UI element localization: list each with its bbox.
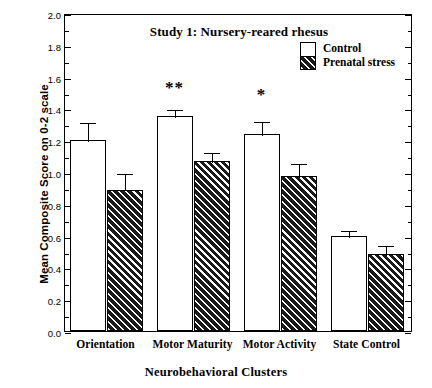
error-bar-stem bbox=[175, 110, 176, 118]
y-tick-mark-right bbox=[405, 47, 411, 48]
y-tick-mark-right bbox=[405, 174, 411, 175]
y-tick-label: 1.4 bbox=[48, 105, 61, 116]
y-tick-mark-right bbox=[405, 142, 411, 143]
error-bar-cap bbox=[80, 123, 96, 124]
y-minor-tick-mark-left bbox=[65, 317, 69, 318]
y-tick-mark-left bbox=[65, 110, 71, 111]
figure-canvas: Mean Composite Score on 0-2 scale Study … bbox=[0, 0, 432, 388]
y-tick-mark-left bbox=[65, 333, 71, 334]
bar-motor-activity-control bbox=[244, 134, 280, 331]
y-tick-label: 2.0 bbox=[48, 10, 61, 21]
error-bar-cap bbox=[291, 164, 307, 165]
y-tick-label: 0.0 bbox=[48, 328, 61, 339]
y-tick-label: 0.4 bbox=[48, 264, 61, 275]
bar-motor-maturity-prenatal-stress bbox=[194, 161, 230, 331]
y-tick-mark-right bbox=[405, 206, 411, 207]
significance-marker-motor-activity: * bbox=[257, 86, 267, 103]
error-bar-cap bbox=[254, 122, 270, 123]
error-bar-stem bbox=[299, 164, 300, 178]
x-axis-label-orientation: Orientation bbox=[76, 338, 135, 350]
bar-motor-activity-prenatal-stress bbox=[281, 176, 317, 331]
y-minor-tick-mark-right bbox=[408, 95, 412, 96]
x-axis-label-motor-activity: Motor Activity bbox=[243, 338, 317, 350]
y-tick-mark-right bbox=[405, 79, 411, 80]
legend-swatch-prenatal-stress bbox=[301, 56, 315, 69]
y-minor-tick-mark-left bbox=[65, 158, 69, 159]
y-tick-mark-left bbox=[65, 15, 71, 16]
y-minor-tick-mark-right bbox=[408, 126, 412, 127]
error-bar-cap bbox=[117, 174, 133, 175]
legend-swatch-stack bbox=[300, 42, 316, 70]
plot-area: Study 1: Nursery-reared rhesus 0.00.20.4… bbox=[64, 14, 412, 332]
y-minor-tick-mark-right bbox=[408, 63, 412, 64]
chart-legend: Control Prenatal stress bbox=[300, 42, 395, 70]
legend-label-prenatal-stress: Prenatal stress bbox=[323, 56, 395, 70]
legend-labels: Control Prenatal stress bbox=[323, 42, 395, 69]
y-minor-tick-mark-left bbox=[65, 285, 69, 286]
bar-orientation-prenatal-stress bbox=[107, 190, 143, 332]
y-minor-tick-mark-left bbox=[65, 31, 69, 32]
bar-motor-maturity-control bbox=[157, 116, 193, 331]
y-tick-label: 1.0 bbox=[48, 169, 61, 180]
y-tick-mark-right bbox=[405, 238, 411, 239]
bar-orientation-control bbox=[70, 140, 106, 331]
y-minor-tick-mark-right bbox=[408, 317, 412, 318]
y-minor-tick-mark-left bbox=[65, 254, 69, 255]
y-tick-mark-right bbox=[405, 301, 411, 302]
error-bar-cap bbox=[341, 231, 357, 232]
y-minor-tick-mark-left bbox=[65, 190, 69, 191]
error-bar-cap bbox=[204, 153, 220, 154]
y-tick-label: 1.2 bbox=[48, 137, 61, 148]
bar-state-control-prenatal-stress bbox=[368, 254, 404, 331]
error-bar-stem bbox=[212, 153, 213, 163]
y-tick-label: 0.6 bbox=[48, 232, 61, 243]
x-axis-label-motor-maturity: Motor Maturity bbox=[152, 338, 232, 350]
error-bar-cap bbox=[167, 110, 183, 111]
y-minor-tick-mark-right bbox=[408, 222, 412, 223]
error-bar-stem bbox=[125, 174, 126, 191]
y-tick-mark-right bbox=[405, 15, 411, 16]
x-axis-title: Neurobehavioral Clusters bbox=[0, 365, 432, 380]
error-bar-stem bbox=[262, 122, 263, 136]
error-bar-cap bbox=[378, 246, 394, 247]
y-minor-tick-mark-left bbox=[65, 126, 69, 127]
y-minor-tick-mark-left bbox=[65, 95, 69, 96]
y-minor-tick-mark-left bbox=[65, 222, 69, 223]
y-minor-tick-mark-right bbox=[408, 285, 412, 286]
y-tick-mark-right bbox=[405, 269, 411, 270]
significance-marker-motor-maturity: ** bbox=[165, 79, 184, 96]
error-bar-stem bbox=[386, 246, 387, 256]
y-tick-mark-left bbox=[65, 47, 71, 48]
chart-title: Study 1: Nursery-reared rhesus bbox=[65, 24, 413, 40]
y-tick-label: 1.8 bbox=[48, 41, 61, 52]
y-minor-tick-mark-right bbox=[408, 31, 412, 32]
y-tick-label: 1.6 bbox=[48, 73, 61, 84]
y-minor-tick-mark-right bbox=[408, 254, 412, 255]
y-tick-label: 0.8 bbox=[48, 200, 61, 211]
y-minor-tick-mark-right bbox=[408, 158, 412, 159]
y-tick-label: 0.2 bbox=[48, 296, 61, 307]
y-tick-mark-left bbox=[65, 79, 71, 80]
error-bar-stem bbox=[88, 123, 89, 142]
y-tick-mark-right bbox=[405, 110, 411, 111]
x-axis-label-state-control: State Control bbox=[333, 338, 400, 350]
y-minor-tick-mark-left bbox=[65, 63, 69, 64]
legend-swatch-control bbox=[301, 43, 315, 56]
bar-state-control-control bbox=[331, 236, 367, 331]
legend-label-control: Control bbox=[323, 42, 395, 56]
y-tick-mark-right bbox=[405, 333, 411, 334]
y-minor-tick-mark-right bbox=[408, 190, 412, 191]
